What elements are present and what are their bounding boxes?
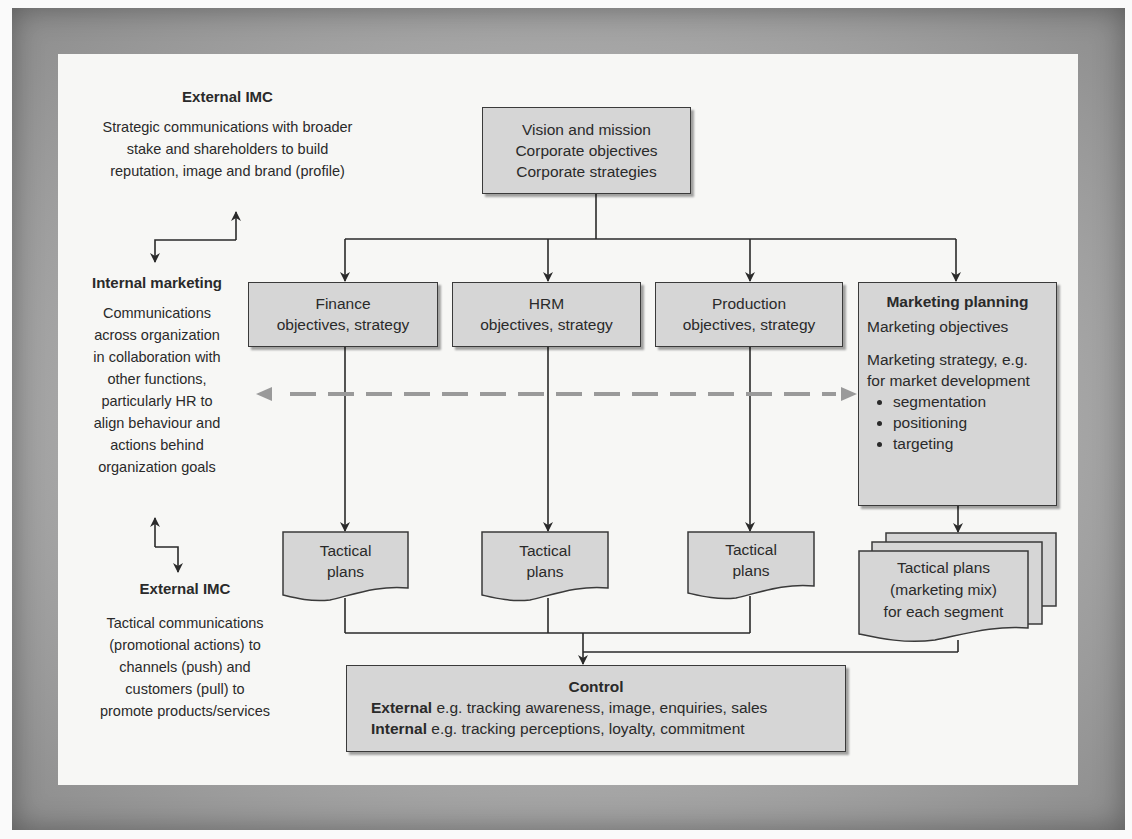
note-line: Tactical communications: [70, 612, 300, 634]
note-line: in collaboration with: [72, 346, 242, 368]
external-text: e.g. tracking awareness, image, enquirie…: [432, 699, 767, 716]
doc-line: plans: [283, 561, 408, 582]
corporate-line: Corporate objectives: [483, 140, 690, 161]
doc-line: plans: [482, 561, 608, 582]
doc-line: Tactical: [482, 540, 608, 561]
control-box: Control External e.g. tracking awareness…: [346, 665, 846, 752]
bullet-item: segmentation: [893, 391, 1048, 412]
control-internal: Internal e.g. tracking perceptions, loya…: [371, 718, 845, 739]
internal-label: Internal: [371, 720, 427, 737]
finance-box: Finance objectives, strategy: [248, 282, 438, 347]
doc-line: (marketing mix): [859, 579, 1028, 601]
box-subtitle: objectives, strategy: [453, 314, 640, 335]
control-external: External e.g. tracking awareness, image,…: [371, 697, 845, 718]
note-line: particularly HR to: [72, 390, 242, 412]
tactical-plans-finance: Tactical plans: [283, 540, 408, 582]
note-heading: External IMC: [70, 578, 300, 600]
marketing-objectives: Marketing objectives: [867, 316, 1048, 337]
marketing-strategy-line: for market development: [867, 370, 1048, 391]
corporate-line: Vision and mission: [483, 119, 690, 140]
box-subtitle: objectives, strategy: [249, 314, 437, 335]
box-subtitle: objectives, strategy: [656, 314, 842, 335]
doc-line: Tactical plans: [859, 557, 1028, 579]
doc-line: Tactical: [688, 539, 814, 560]
corporate-line: Corporate strategies: [483, 161, 690, 182]
note-line: Communications: [72, 302, 242, 324]
marketing-planning-box: Marketing planning Marketing objectives …: [858, 282, 1057, 506]
marketing-strategy-line: Marketing strategy, e.g.: [867, 349, 1048, 370]
box-title: HRM: [453, 293, 640, 314]
internal-marketing-note: Internal marketing Communications across…: [72, 272, 242, 478]
note-line: stake and shareholders to build: [90, 138, 365, 160]
tactical-plans-production: Tactical plans: [688, 539, 814, 581]
note-line: promote products/services: [70, 700, 300, 722]
note-line: across organization: [72, 324, 242, 346]
note-line: Strategic communications with broader: [90, 116, 365, 138]
note-line: align behaviour and: [72, 412, 242, 434]
hrm-box: HRM objectives, strategy: [452, 282, 641, 347]
note-line: (promotional actions) to: [70, 634, 300, 656]
external-imc-tactical: External IMC Tactical communications (pr…: [70, 578, 300, 722]
external-imc-strategic: External IMC Strategic communications wi…: [90, 86, 365, 182]
bullet-item: positioning: [893, 412, 1048, 433]
corporate-box: Vision and mission Corporate objectives …: [482, 107, 691, 194]
doc-line: Tactical: [283, 540, 408, 561]
note-heading: External IMC: [90, 86, 365, 108]
production-box: Production objectives, strategy: [655, 282, 843, 347]
note-line: customers (pull) to: [70, 678, 300, 700]
box-title: Production: [656, 293, 842, 314]
bullet-item: targeting: [893, 433, 1048, 454]
strategy-bullets: segmentation positioning targeting: [867, 391, 1048, 454]
control-title: Control: [347, 676, 845, 697]
doc-line: plans: [688, 560, 814, 581]
note-line: organization goals: [72, 456, 242, 478]
note-line: actions behind: [72, 434, 242, 456]
internal-text: e.g. tracking perceptions, loyalty, comm…: [427, 720, 745, 737]
box-title: Finance: [249, 293, 437, 314]
doc-line: for each segment: [859, 601, 1028, 623]
note-heading: Internal marketing: [72, 272, 242, 294]
tactical-plans-hrm: Tactical plans: [482, 540, 608, 582]
tactical-plans-marketing: Tactical plans (marketing mix) for each …: [859, 557, 1028, 623]
note-line: channels (push) and: [70, 656, 300, 678]
note-line: other functions,: [72, 368, 242, 390]
external-label: External: [371, 699, 432, 716]
note-line: reputation, image and brand (profile): [90, 160, 365, 182]
marketing-planning-title: Marketing planning: [867, 291, 1048, 312]
